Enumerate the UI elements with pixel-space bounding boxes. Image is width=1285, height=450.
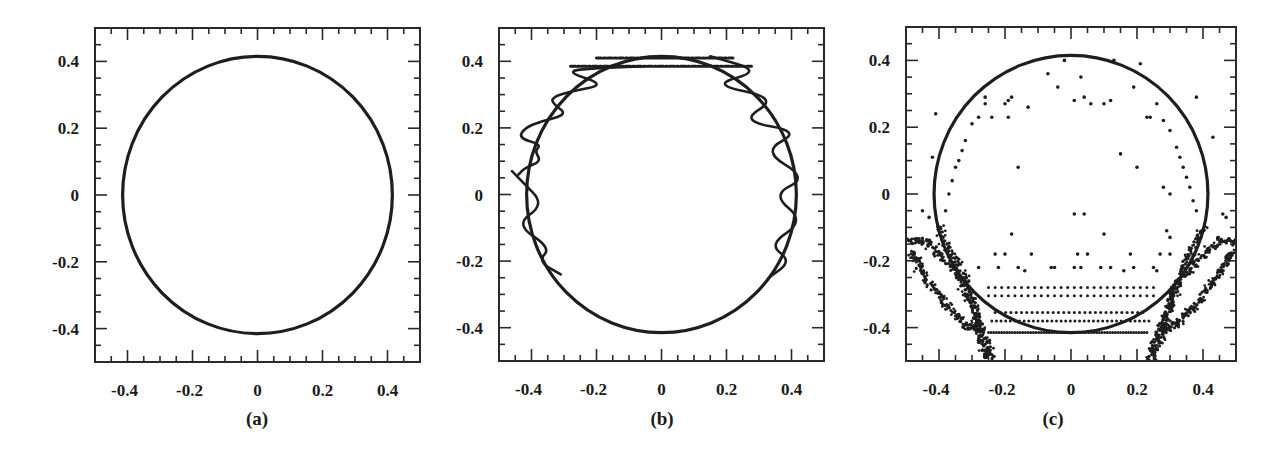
plot-area-b: [512, 56, 798, 332]
x-tick-label: 0: [253, 381, 262, 400]
x-tick-label: -0.2: [989, 380, 1016, 399]
panel-a: (a) -0.4-0.200.20.40.40.20-0.2-0.4: [52, 28, 420, 430]
x-axis-labels-c: -0.4-0.200.20.4: [923, 380, 1215, 399]
y-axis-labels-c: 0.40.20-0.2-0.4: [863, 51, 890, 337]
x-tick-label: 0.4: [781, 380, 803, 399]
x-axis-labels-b: -0.4-0.200.20.4: [515, 380, 803, 399]
x-tick-label: -0.4: [111, 381, 138, 400]
y-tick-label: 0.4: [58, 52, 80, 71]
panel-b: (b) -0.4-0.200.20.40.40.20-0.2-0.4: [456, 28, 824, 430]
x-tick-label: 0: [1067, 380, 1076, 399]
figure: (a) -0.4-0.200.20.40.40.20-0.2-0.4 (b) -…: [0, 0, 1285, 450]
y-tick-label: 0.2: [462, 119, 483, 138]
circle-trajectory: [527, 56, 797, 332]
x-tick-label: -0.2: [580, 380, 607, 399]
left-oscillation-curve: [512, 171, 561, 274]
x-tick-label: -0.4: [515, 380, 542, 399]
y-tick-label: -0.4: [456, 319, 483, 338]
row-y-0.355: [994, 311, 1145, 314]
circle-trajectory: [123, 56, 393, 333]
x-tick-label: 0.2: [716, 380, 737, 399]
row-y-0.38: [990, 319, 1150, 322]
ticks-b: [499, 28, 824, 361]
y-tick-label: 0: [882, 185, 891, 204]
y-tick-label: -0.2: [456, 252, 483, 271]
panel-label-b: (b): [650, 408, 673, 430]
plot-frame-a: [95, 28, 420, 362]
plot-frame-b: [499, 28, 824, 361]
y-tick-label: 0: [475, 186, 484, 205]
x-tick-label: 0.4: [1192, 380, 1214, 399]
row-y-0.415: [987, 331, 1148, 334]
x-tick-label: 0.4: [377, 381, 399, 400]
circle-trajectory: [934, 55, 1208, 332]
row-y-0.305: [987, 294, 1155, 297]
plot-area-c: [900, 55, 1239, 367]
y-axis-labels-b: 0.40.20-0.2-0.4: [456, 52, 483, 337]
y-tick-label: -0.2: [52, 253, 79, 272]
y-tick-label: -0.4: [863, 319, 890, 338]
panel-label-a: (a): [246, 408, 268, 430]
panel-c: (c) -0.4-0.200.20.40.40.20-0.2-0.4: [863, 27, 1239, 430]
x-tick-label: 0.2: [1126, 380, 1147, 399]
right-oscillation-curve: [710, 56, 797, 277]
y-tick-label: -0.4: [52, 320, 79, 339]
panel-label-c: (c): [1042, 408, 1063, 430]
x-axis-labels-a: -0.4-0.200.20.4: [111, 381, 399, 400]
ticks-a: [95, 28, 420, 362]
y-tick-label: 0.2: [869, 118, 890, 137]
y-tick-label: 0: [71, 186, 80, 205]
y-tick-label: 0.4: [869, 51, 891, 70]
scattered-points: [921, 59, 1228, 273]
y-tick-label: 0.2: [58, 119, 79, 138]
y-tick-label: -0.2: [863, 252, 890, 271]
y-axis-labels-a: 0.40.20-0.2-0.4: [52, 52, 79, 338]
x-tick-label: -0.2: [176, 381, 203, 400]
x-tick-label: 0: [657, 380, 666, 399]
row-y-0.28: [987, 286, 1155, 289]
x-tick-label: -0.4: [923, 380, 950, 399]
y-tick-label: 0.4: [462, 52, 484, 71]
plot-area-a: [123, 56, 393, 333]
x-tick-label: 0.2: [312, 381, 333, 400]
